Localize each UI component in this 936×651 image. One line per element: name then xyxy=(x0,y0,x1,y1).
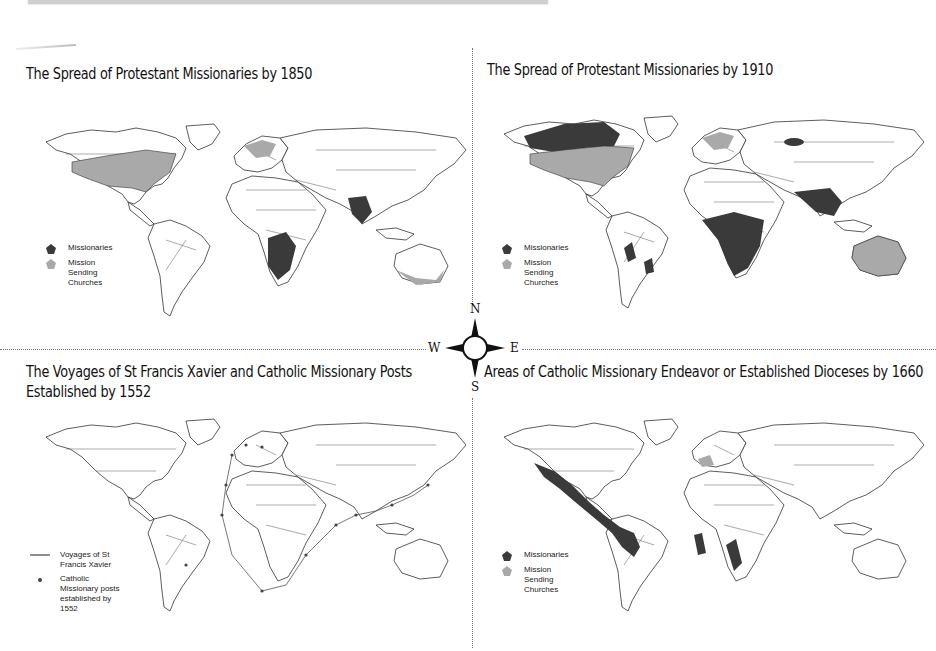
pentagon-light-icon xyxy=(500,566,514,576)
post-dot-icon xyxy=(30,577,50,583)
legend-1910: Missionaries Mission Sending Churches xyxy=(500,243,590,292)
legend-1850: Missionaries Mission Sending Churches xyxy=(44,243,134,292)
compass-east: E xyxy=(510,341,519,355)
pentagon-dark-icon xyxy=(500,551,514,561)
legend-1552: Voyages of St Francis Xavier Catholic Mi… xyxy=(30,550,140,618)
legend-label: Voyages of St Francis Xavier xyxy=(60,550,120,570)
legend-label: Missionaries xyxy=(68,243,112,253)
pentagon-dark-icon xyxy=(500,244,514,254)
scan-mark xyxy=(16,44,76,50)
page-edge xyxy=(28,0,548,3)
legend-label: Catholic Missionary posts established by… xyxy=(60,574,120,614)
legend-item-sending-churches: Mission Sending Churches xyxy=(500,565,590,595)
panel-title-xavier-line1: The Voyages of St Francis Xavier and Cat… xyxy=(26,362,412,382)
panel-title-1660: Areas of Catholic Missionary Endeavor or… xyxy=(484,362,923,382)
panel-title-1910: The Spread of Protestant Missionaries by… xyxy=(487,60,773,80)
pentagon-dark-icon xyxy=(44,244,58,254)
horizontal-divider-right xyxy=(522,349,936,350)
legend-item-missionaries: Missionaries xyxy=(500,243,590,254)
legend-item-posts: Catholic Missionary posts established by… xyxy=(30,574,140,614)
legend-item-missionaries: Missionaries xyxy=(500,550,590,561)
compass-north: N xyxy=(470,302,481,316)
legend-label: Mission Sending Churches xyxy=(524,258,574,288)
voyage-line-icon xyxy=(30,554,50,556)
legend-label: Missionaries xyxy=(524,550,568,560)
legend-1660: Missionaries Mission Sending Churches xyxy=(500,550,590,599)
legend-item-sending-churches: Mission Sending Churches xyxy=(44,258,134,288)
legend-label: Mission Sending Churches xyxy=(68,258,118,288)
compass-rose: N S W E xyxy=(425,300,525,396)
panel-title-1850: The Spread of Protestant Missionaries by… xyxy=(26,64,312,84)
legend-item-voyages: Voyages of St Francis Xavier xyxy=(30,550,140,570)
world-map-1910 xyxy=(494,112,934,332)
legend-item-missionaries: Missionaries xyxy=(44,243,134,254)
world-map-1850 xyxy=(36,120,476,330)
compass-west: W xyxy=(428,341,440,355)
pentagon-light-icon xyxy=(500,259,514,269)
horizontal-divider-left xyxy=(0,349,426,350)
panel-title-xavier-line2: Established by 1552 xyxy=(26,382,151,402)
legend-label: Missionaries xyxy=(524,243,568,253)
pentagon-light-icon xyxy=(44,259,58,269)
compass-south: S xyxy=(471,380,479,394)
legend-item-sending-churches: Mission Sending Churches xyxy=(500,258,590,288)
legend-label: Mission Sending Churches xyxy=(524,565,574,595)
